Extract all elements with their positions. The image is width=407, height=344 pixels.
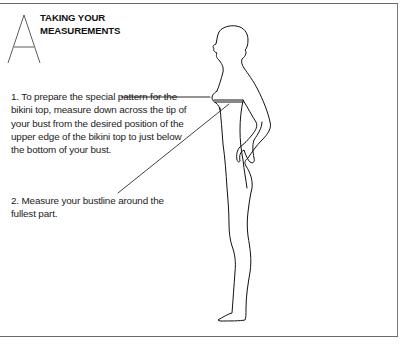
page-border (0, 3, 398, 337)
heading-line-1: TAKING YOUR (40, 11, 120, 24)
section-heading: TAKING YOUR MEASUREMENTS (40, 11, 120, 37)
instruction-step-1: 1. To prepare the special pattern for th… (11, 90, 191, 156)
heading-line-2: MEASUREMENTS (40, 24, 120, 37)
instruction-step-2: 2. Measure your bustline around the full… (11, 194, 191, 221)
